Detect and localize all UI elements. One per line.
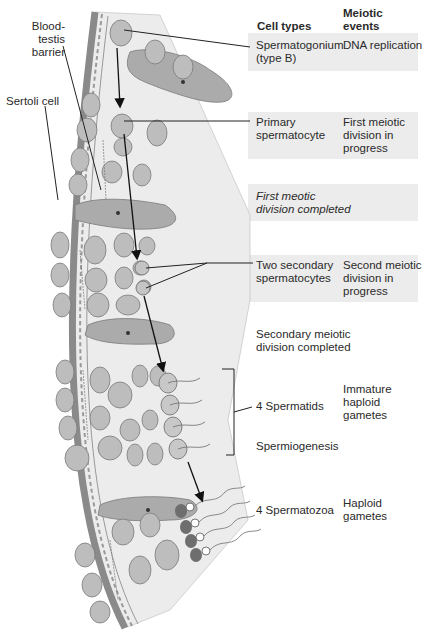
label-sertoli-cell: Sertoli cell [6, 95, 59, 108]
cell-type-spermatids: 4 Spermatids [256, 400, 324, 413]
label-blood-testis-barrier: Blood-testis barrier [5, 20, 65, 59]
event-dna-replication: DNA replication [343, 39, 422, 52]
cell-type-primary-spermatocyte: Primary spermatocyte [256, 116, 325, 142]
header-cell-types: Cell types [257, 20, 311, 33]
cell-type-spermatozoa: 4 Spermatozoa [256, 504, 334, 517]
event-haploid-gametes: Haploid gametes [343, 497, 387, 523]
event-first-meiotic-in-progress: First meiotic division in progress [343, 116, 405, 155]
event-second-meiotic-in-progress: Second meiotic division in progress [343, 259, 422, 298]
event-secondary-meiotic-completed: Secondary meiotic division completed [256, 328, 351, 354]
event-immature-haploid-gametes: Immature haploid gametes [343, 383, 392, 422]
cell-type-secondary-spermatocytes: Two secondary spermatocytes [256, 259, 333, 285]
event-spermiogenesis: Spermiogenesis [256, 440, 338, 453]
cell-type-spermatogonium: Spermatogonium (type B) [256, 39, 344, 65]
event-first-meiotic-completed: First meotic division completed [256, 190, 351, 216]
seminiferous-tubule-illustration [0, 0, 424, 631]
header-meiotic-events: Meiotic events [343, 7, 383, 33]
